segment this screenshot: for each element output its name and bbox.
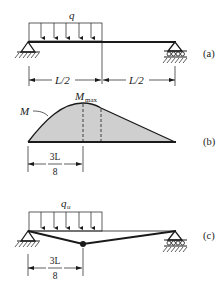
panel-c-tag: (c) <box>203 230 215 242</box>
load-label-qu-subscript: u <box>67 203 71 211</box>
dim-right-label: L/2 <box>128 74 144 86</box>
roller-support-icon <box>163 231 187 252</box>
beam-figure: q <box>0 0 224 286</box>
mmax-label: M <box>74 90 85 102</box>
load-label-q: q <box>69 9 75 21</box>
distributed-load <box>29 23 102 41</box>
mmax-subscript: max <box>85 96 98 104</box>
roller-support-icon <box>163 42 187 63</box>
panel-a-tag: (a) <box>203 48 215 60</box>
plastic-hinge-icon <box>80 241 86 247</box>
ultimate-load <box>29 212 102 231</box>
moment-label: M <box>19 105 30 117</box>
dim-b-numerator: 3L <box>50 152 61 162</box>
dim-b-denominator: 8 <box>53 167 58 177</box>
moment-label-leader <box>33 111 48 116</box>
dim-c-denominator: 8 <box>53 271 58 281</box>
panel-b: M M max 3L 8 (b) <box>19 90 216 177</box>
dim-c-numerator: 3L <box>50 256 61 266</box>
dim-left-label: L/2 <box>54 74 70 86</box>
panel-c: q u <box>15 197 215 281</box>
pin-support-icon <box>15 42 40 58</box>
collapse-mechanism <box>28 231 176 244</box>
panel-a: q <box>15 9 215 86</box>
panel-b-tag: (b) <box>203 136 216 148</box>
